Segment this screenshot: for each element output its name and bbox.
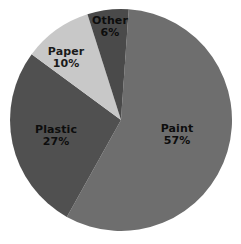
pie-label-value: 27% <box>35 136 77 148</box>
pie-chart: Paint57%Plastic27%Paper10%Other6% <box>0 0 241 244</box>
pie-label-value: 6% <box>92 27 128 39</box>
pie-label-other: Other6% <box>92 15 128 40</box>
pie-slices-group <box>10 9 232 231</box>
pie-label-paper: Paper10% <box>48 46 84 71</box>
pie-label-value: 57% <box>161 135 194 147</box>
pie-label-paint: Paint57% <box>161 123 194 148</box>
pie-label-plastic: Plastic27% <box>35 124 77 149</box>
pie-label-value: 10% <box>48 58 84 70</box>
